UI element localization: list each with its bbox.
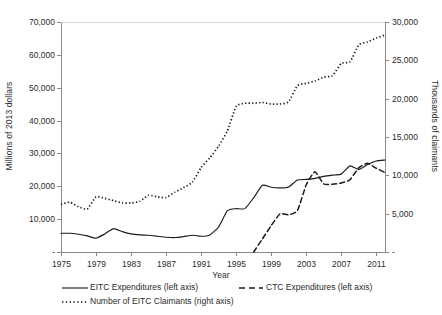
legend-item-eitc-expenditures: EITC Expenditures (left axis) [62, 282, 198, 292]
plot-area [0, 0, 442, 315]
legend-label-eitc-claimants: Number of EITC Claimants (right axis) [90, 296, 234, 306]
legend-label-ctc-expenditures: CTC Expenditures (left axis) [266, 282, 372, 292]
legend-item-eitc-claimants: Number of EITC Claimants (right axis) [62, 296, 234, 306]
legend-item-ctc-expenditures: CTC Expenditures (left axis) [238, 282, 372, 292]
legend-swatch-dotted-icon [62, 297, 88, 306]
legend-swatch-solid-icon [62, 283, 88, 292]
series-line-1 [254, 163, 385, 252]
chart-figure: Millions of 2013 dollars Thousands of cl… [0, 0, 442, 315]
legend-label-eitc-expenditures: EITC Expenditures (left axis) [90, 282, 198, 292]
chart-legend: EITC Expenditures (left axis) CTC Expend… [0, 282, 442, 315]
legend-swatch-dashed-icon [238, 283, 264, 292]
series-layer [61, 35, 385, 252]
